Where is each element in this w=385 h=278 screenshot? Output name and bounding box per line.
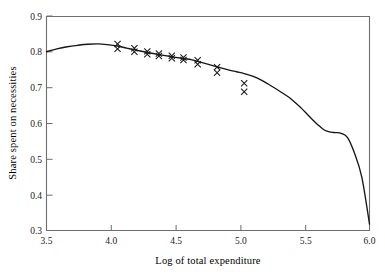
y-tick-label: 0.4 [30, 191, 42, 201]
data-series-observed-markers [114, 41, 247, 95]
x-tick-label: 3.5 [41, 236, 53, 246]
engel-curve-plot: 0.9 0.8 0.7 0.6 0.5 0.4 0.3 3.5 4.0 4.5 … [0, 0, 385, 278]
y-tick-label: 0.5 [30, 155, 42, 165]
data-series-fitted-curve [47, 44, 370, 224]
y-tick-label: 0.6 [30, 119, 42, 129]
x-axis-tick-marks [47, 225, 370, 231]
x-tick-label: 5.5 [300, 236, 312, 246]
y-tick-label: 0.7 [30, 83, 42, 93]
x-tick-label: 4.5 [170, 236, 182, 246]
y-axis-title: Share spent on necessities [7, 66, 18, 179]
chart-figure: 0.9 0.8 0.7 0.6 0.5 0.4 0.3 3.5 4.0 4.5 … [0, 0, 385, 278]
y-axis-tick-marks [47, 16, 53, 231]
x-tick-label: 6.0 [364, 236, 376, 246]
y-tick-label: 0.3 [30, 226, 42, 236]
y-tick-label: 0.9 [30, 12, 42, 22]
data-point-marker [114, 46, 120, 52]
x-axis-tick-labels: 3.5 4.0 4.5 5.0 5.5 6.0 [41, 236, 376, 246]
y-tick-label: 0.8 [30, 47, 42, 57]
data-point-marker [214, 70, 220, 76]
x-axis-title: Log of total expenditure [155, 255, 261, 266]
y-axis-tick-labels: 0.9 0.8 0.7 0.6 0.5 0.4 0.3 [30, 12, 42, 237]
x-tick-label: 4.0 [105, 236, 117, 246]
plot-axes-frame [46, 16, 370, 231]
data-point-marker [241, 80, 247, 86]
data-point-marker [241, 89, 247, 95]
x-tick-label: 5.0 [235, 236, 247, 246]
fitted-curve-line [47, 44, 370, 224]
